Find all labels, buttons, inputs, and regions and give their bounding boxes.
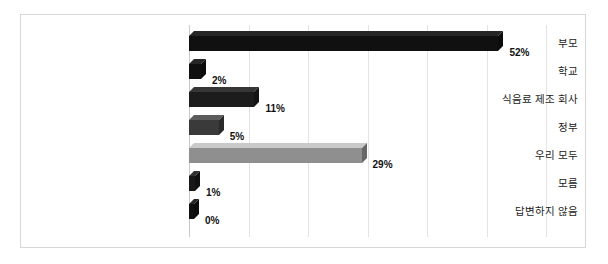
bar-top-face [189,87,259,92]
bar-row: 학교2% [21,57,585,85]
category-label: 식음료 제조 회사 [410,85,585,113]
bar-front-face [189,36,498,51]
bar-row: 답변하지 않음0% [21,197,585,225]
bar-row: 우리 모두29% [21,141,585,169]
bar-side-face [195,171,200,191]
bar-2 [189,64,201,79]
category-label: 모름 [410,169,585,197]
bar-front-face [189,64,201,79]
bar-5 [189,148,362,163]
bar-top-face [189,31,503,36]
bar-side-face [362,143,367,163]
bar-front-face [189,120,219,135]
bar-row: 식음료 제조 회사11% [21,85,585,113]
value-label: 0% [205,215,219,226]
category-label: 정부 [410,113,585,141]
bar-row: 부모52% [21,29,585,57]
bar-6 [189,176,195,191]
bar-side-face [254,87,259,107]
chart-plot-area: 부모52%학교2%식음료 제조 회사11%정부5%우리 모두29%모름1%답변하… [21,15,585,247]
bar-1 [189,36,498,51]
bar-side-face [219,115,224,135]
bar-7 [189,204,194,219]
category-label: 학교 [410,57,585,85]
bar-front-face [189,92,254,107]
category-label: 우리 모두 [410,141,585,169]
bar-side-face [194,199,199,219]
bar-4 [189,120,219,135]
bar-row: 정부5% [21,113,585,141]
bar-top-face [189,143,367,148]
bar-row: 모름1% [21,169,585,197]
chart-frame: 부모52%학교2%식음료 제조 회사11%정부5%우리 모두29%모름1%답변하… [20,14,586,248]
bar-3 [189,92,254,107]
category-label: 답변하지 않음 [410,197,585,225]
bar-front-face [189,148,362,163]
bar-side-face [201,59,206,79]
